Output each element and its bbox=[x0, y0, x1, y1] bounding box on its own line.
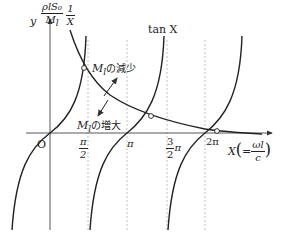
tan-label: tan X bbox=[148, 24, 177, 35]
plot-canvas bbox=[0, 0, 283, 246]
diagram-root: y ρlS₀ Ml 1 X tan X Mlの減少 Mlの増大 O π 2 π … bbox=[0, 0, 283, 246]
axes bbox=[26, 19, 272, 230]
tick-two-pi: 2π bbox=[206, 137, 219, 147]
tick-three-pi-over-2: 3 2 π bbox=[166, 137, 181, 160]
tick-pi-over-2: π 2 bbox=[79, 137, 88, 160]
hyperbola-label: ρlS₀ Ml 1 X bbox=[41, 2, 75, 28]
origin-label: O bbox=[37, 139, 46, 150]
y-axis-label: y bbox=[30, 16, 36, 27]
tick-pi: π bbox=[127, 139, 134, 149]
annotation-decrease: Mlの減少 bbox=[92, 63, 136, 77]
annotation-increase: Mlの増大 bbox=[77, 120, 121, 134]
hyperbola-curve bbox=[70, 30, 262, 134]
x-axis-label: X(=ωlc) bbox=[228, 140, 271, 163]
